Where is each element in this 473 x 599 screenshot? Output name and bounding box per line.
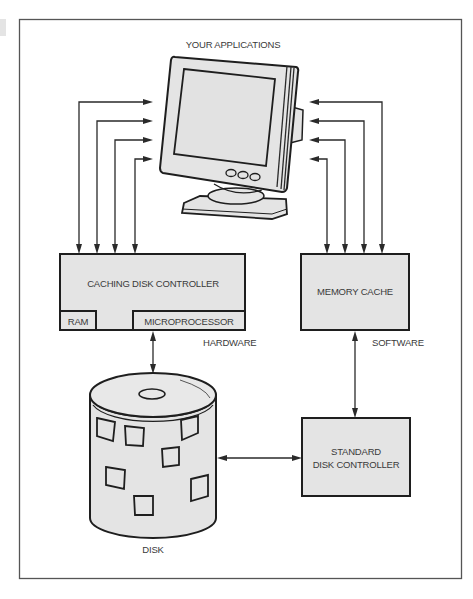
caching-disk-controller: CACHING DISK CONTROLLER RAM MICROPROCESS… [60,254,245,330]
caching-diagram: YOUR APPLICATIONS [0,0,473,599]
ram-label: RAM [68,316,89,327]
disk-label: DISK [142,544,164,555]
software-label: SOFTWARE [372,337,424,348]
software-connection-arrows [309,99,385,254]
controller-disk-arrow [150,331,156,374]
disk-icon [90,373,216,538]
caching-disk-controller-label: CACHING DISK CONTROLLER [87,278,219,289]
your-applications-label: YOUR APPLICATIONS [186,39,281,50]
disk-standard-arrow [217,455,302,461]
hardware-label: HARDWARE [203,337,256,348]
standard-label-line2: DISK CONTROLLER [313,459,400,470]
hardware-connection-arrows [76,99,153,254]
memory-cache: MEMORY CACHE [301,254,409,330]
standard-disk-controller: STANDARD DISK CONTROLLER [302,418,410,496]
monitor-icon [160,57,303,219]
cache-standard-arrow [352,331,358,418]
microprocessor-label: MICROPROCESSOR [144,316,234,327]
memory-cache-label: MEMORY CACHE [317,286,393,297]
standard-label-line1: STANDARD [331,446,381,457]
